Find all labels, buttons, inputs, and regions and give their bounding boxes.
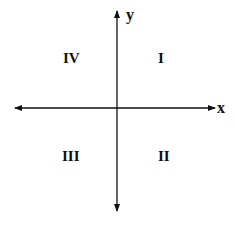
x-axis-label: x [217, 99, 225, 116]
quadrant-diagram: y x IV I III II [0, 0, 235, 228]
quadrant-label-ii: II [158, 148, 170, 164]
y-axis-label: y [126, 6, 134, 24]
quadrant-label-iv: IV [63, 50, 80, 66]
quadrant-label-iii: III [62, 148, 80, 164]
quadrant-label-i: I [158, 50, 164, 66]
